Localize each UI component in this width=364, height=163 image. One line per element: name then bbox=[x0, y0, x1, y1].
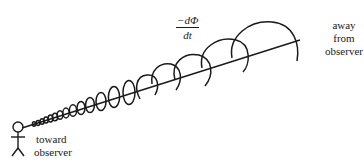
flux-rate-formula: −dΦ dt bbox=[176, 14, 199, 41]
away-line-3: observer bbox=[322, 46, 364, 57]
formula-denominator: dt bbox=[176, 28, 199, 41]
observer-figure-icon bbox=[11, 122, 25, 156]
away-line-1: away bbox=[322, 20, 364, 31]
away-line-2: from bbox=[322, 33, 364, 44]
helix-loops bbox=[32, 22, 297, 126]
toward-line-2: observer bbox=[34, 147, 72, 158]
away-from-observer-label: away from observer bbox=[322, 20, 364, 57]
formula-numerator: −dΦ bbox=[176, 14, 199, 28]
toward-observer-label: toward observer bbox=[34, 134, 72, 158]
toward-line-1: toward bbox=[34, 134, 72, 145]
